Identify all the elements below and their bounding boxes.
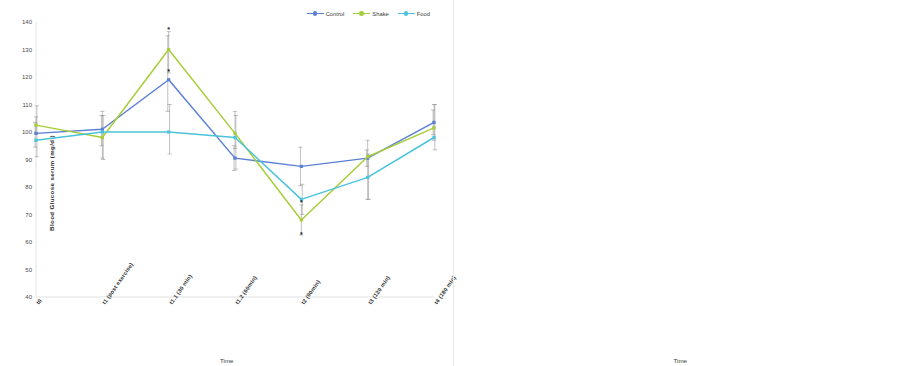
insulin-x-axis-label: Time: [454, 357, 907, 364]
y-tick-label: 60: [14, 239, 32, 245]
data-point-marker: [34, 124, 37, 127]
data-point-marker: [432, 136, 435, 139]
data-point-marker: [432, 126, 435, 129]
significance-asterisk: *: [300, 198, 303, 205]
data-point-marker: [233, 136, 236, 139]
x-tick-label: t0: [35, 298, 43, 306]
legend-label: Shake: [372, 11, 388, 17]
data-point-marker: [101, 136, 104, 139]
legend-item-control[interactable]: Control: [307, 10, 345, 17]
y-tick-label: 90: [14, 157, 32, 163]
significance-asterisk: *: [300, 230, 303, 237]
legend-swatch-icon: [353, 10, 370, 17]
significance-asterisk: *: [167, 68, 170, 75]
y-tick-label: 110: [14, 102, 32, 108]
data-point-marker: [101, 130, 104, 133]
data-point-marker: [300, 165, 303, 168]
two-panel-line-chart-figure: Blood Glucose serum (mg/dl) 405060708090…: [0, 0, 907, 366]
legend-swatch-icon: [307, 10, 324, 17]
data-point-marker: [366, 176, 369, 179]
legend-label: Food: [417, 11, 430, 17]
data-point-marker: [167, 130, 170, 133]
glucose-plot-area: 405060708090100110120130140t0t1 (post ex…: [36, 22, 434, 297]
glucose-x-axis-label: Time: [0, 357, 454, 364]
data-point-marker: [167, 78, 170, 81]
data-point-marker: [101, 128, 104, 131]
y-tick-label: 130: [14, 47, 32, 53]
error-bars-control: [33, 36, 435, 186]
legend-item-shake[interactable]: Shake: [353, 10, 388, 17]
y-tick-label: 100: [14, 129, 32, 135]
glucose-legend: ControlShakeFood: [307, 10, 430, 17]
y-tick-label: 140: [14, 19, 32, 25]
data-point-marker: [300, 218, 303, 221]
data-point-marker: [167, 48, 170, 51]
legend-item-food[interactable]: Food: [398, 10, 430, 17]
legend-swatch-icon: [398, 10, 415, 17]
y-tick-label: 50: [14, 267, 32, 273]
data-point-marker: [34, 132, 37, 135]
y-tick-label: 70: [14, 212, 32, 218]
series-shake: [34, 48, 435, 222]
y-tick-label: 120: [14, 74, 32, 80]
data-point-marker: [432, 121, 435, 124]
significance-asterisk: *: [167, 25, 170, 32]
insulin-chart-panel: Insulin serum (ug/ml) 010203040506070809…: [454, 0, 907, 366]
glucose-chart-panel: Blood Glucose serum (mg/dl) 405060708090…: [0, 0, 454, 366]
y-tick-label: 80: [14, 184, 32, 190]
legend-label: Control: [326, 11, 345, 17]
glucose-svg: [36, 22, 434, 297]
data-point-marker: [366, 155, 369, 158]
data-point-marker: [233, 157, 236, 160]
data-point-marker: [34, 139, 37, 142]
y-tick-label: 40: [14, 294, 32, 300]
data-point-marker: [233, 132, 236, 135]
